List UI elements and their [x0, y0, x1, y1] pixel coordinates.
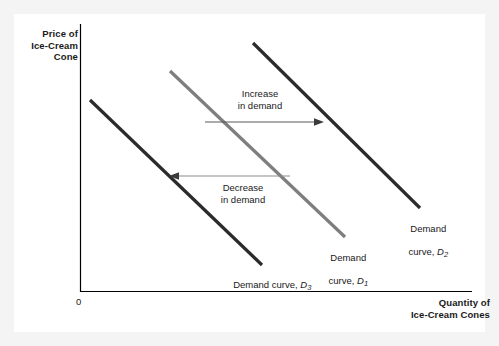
d2-subscript: 2 — [444, 250, 448, 259]
demand-shift-figure: Price of Ice-Cream Cone Quantity of Ice-… — [0, 0, 499, 346]
increase-in-demand-label: Increase in demand — [213, 88, 307, 111]
demand-curve-d3-label: Demand curve, D3 — [204, 267, 330, 302]
d2-label-line1: Demand — [410, 223, 446, 234]
d1-subscript: 1 — [364, 279, 368, 288]
decrease-in-demand-label: Decrease in demand — [196, 182, 290, 205]
d3-subscript: 3 — [307, 283, 311, 292]
d2-label-line2: curve, — [409, 246, 438, 257]
x-axis-title-text: Quantity of Ice-Cream Cones — [411, 297, 490, 320]
d1-label-line1: Demand — [330, 252, 366, 263]
y-axis-title-text: Price of Ice-Cream Cone — [31, 28, 78, 62]
d3-label-line1: Demand curve, — [233, 279, 300, 290]
increase-in-demand-text: Increase in demand — [238, 88, 282, 111]
origin-label: 0 — [76, 296, 81, 308]
d1-label-line2: curve, — [329, 275, 358, 286]
d1-symbol: D — [357, 275, 364, 286]
decrease-in-demand-text: Decrease in demand — [221, 182, 265, 205]
y-axis-title: Price of Ice-Cream Cone — [16, 28, 78, 63]
x-axis-title: Quantity of Ice-Cream Cones — [378, 297, 490, 320]
d2-symbol: D — [437, 246, 444, 257]
demand-curve-d2-label: Demand curve, D2 — [386, 211, 460, 269]
